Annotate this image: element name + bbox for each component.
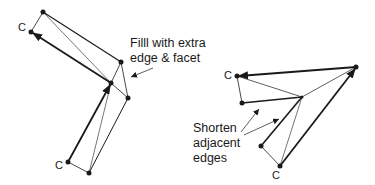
- edge: [111, 62, 121, 83]
- edge: [68, 162, 89, 173]
- edge: [237, 76, 242, 103]
- directed-edge: [33, 33, 111, 83]
- corner-label: C: [272, 169, 280, 181]
- annotation-line: adjacent: [193, 136, 240, 151]
- edge: [31, 12, 43, 32]
- diagram-canvas: [0, 0, 375, 185]
- corner-label: C: [224, 69, 232, 81]
- directed-edge: [239, 67, 356, 76]
- annotation-line: edge & facet: [130, 51, 206, 66]
- annotation-line: Filll with extra: [130, 36, 206, 51]
- annotation-arrow: [241, 109, 259, 132]
- edge: [302, 67, 356, 97]
- annotation-line: edges: [193, 151, 240, 166]
- edge: [89, 98, 128, 173]
- right-figure: [237, 67, 356, 166]
- edge: [280, 97, 302, 166]
- corner-label: C: [55, 159, 63, 171]
- right-annotation: Shorten adjacent edges: [193, 121, 240, 166]
- edge: [261, 146, 280, 166]
- edge: [261, 97, 302, 146]
- edge: [43, 12, 121, 62]
- edge: [237, 76, 302, 97]
- edge: [43, 12, 111, 83]
- annotation-line: Shorten: [193, 121, 240, 136]
- edge: [89, 83, 111, 173]
- left-vertices: [29, 10, 131, 176]
- corner-label: C: [18, 21, 26, 33]
- edge: [242, 97, 302, 103]
- left-annotation: Filll with extra edge & facet: [130, 36, 206, 66]
- directed-edge: [280, 69, 355, 166]
- directed-edge: [68, 85, 110, 162]
- annotation-arrow: [131, 68, 153, 77]
